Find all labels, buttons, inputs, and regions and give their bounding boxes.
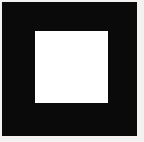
square-aperture: [35, 31, 108, 103]
image-canvas: [0, 0, 144, 142]
